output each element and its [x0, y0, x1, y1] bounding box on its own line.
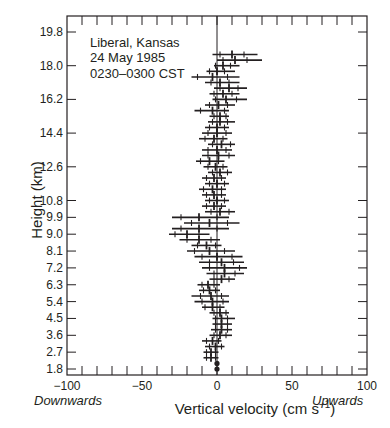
y-tick-label: 6.3: [46, 278, 63, 292]
x-tick-label: 0: [214, 379, 221, 393]
annotation-block: Liberal, Kansas 24 May 1985 0230–0300 CS…: [90, 35, 185, 81]
downwards-label: Downwards: [34, 393, 102, 408]
y-tick-label: 3.6: [46, 328, 63, 342]
y-tick-label: 1.8: [46, 362, 63, 376]
x-axis-title-main: Vertical velocity (cm s: [175, 400, 319, 417]
data-point-dot: [214, 361, 219, 366]
y-tick-label: 18.0: [40, 59, 64, 73]
y-tick-label: 9.0: [46, 227, 63, 241]
annotation-time: 0230–0300 CST: [90, 66, 185, 81]
x-axis-ticks: −100−50050100: [53, 379, 377, 393]
y-axis-title: Height (km): [28, 161, 45, 239]
vertical-velocity-chart: 1.82.73.64.55.46.37.28.19.09.910.812.614…: [0, 0, 390, 428]
y-tick-label: 16.2: [40, 92, 64, 106]
data-points: [169, 50, 262, 371]
y-tick-label: 2.7: [46, 345, 63, 359]
x-tick-label: 100: [357, 379, 377, 393]
y-tick-label: 7.2: [46, 261, 63, 275]
y-tick-label: 4.5: [46, 311, 63, 325]
y-tick-label: 9.9: [46, 210, 63, 224]
annotation-date: 24 May 1985: [90, 50, 165, 65]
y-tick-label: 5.4: [46, 295, 63, 309]
x-tick-label: −50: [132, 379, 153, 393]
x-tick-label: −100: [53, 379, 80, 393]
x-tick-label: 50: [285, 379, 299, 393]
y-tick-label: 14.4: [40, 126, 64, 140]
annotation-location: Liberal, Kansas: [90, 35, 180, 50]
upwards-label: Upwards: [312, 393, 364, 408]
data-point-dot: [214, 366, 219, 371]
y-tick-label: 8.1: [46, 244, 63, 258]
y-tick-label: 19.8: [40, 25, 64, 39]
